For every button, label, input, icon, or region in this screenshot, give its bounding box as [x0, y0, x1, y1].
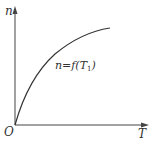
curve-label: n=f(T1): [55, 60, 96, 73]
diagram-canvas: [0, 0, 154, 150]
y-axis-arrow-icon: [13, 6, 18, 14]
origin-label: O: [4, 126, 14, 138]
x-axis-label: T: [138, 128, 146, 140]
curve-label-main: n=f(T: [55, 59, 87, 72]
curve-label-close: ): [91, 59, 95, 72]
y-axis-label: n: [5, 5, 13, 17]
curve-n-f-t1: [15, 28, 110, 125]
